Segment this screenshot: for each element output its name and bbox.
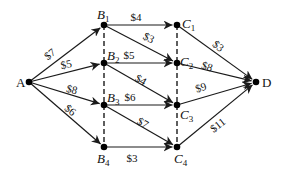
edge-label-C3-D: $9 <box>194 80 209 95</box>
node-C1-dot <box>174 22 181 29</box>
edge-A-B3 <box>29 82 100 104</box>
node-label-C2: C2 <box>180 54 193 71</box>
edge-label-B2-C3: $4 <box>133 72 149 88</box>
edge-label-B4-C4: $3 <box>127 152 139 164</box>
node-D-dot <box>253 79 260 86</box>
edge-label-A-B2: $5 <box>60 57 74 71</box>
node-label-C1: C1 <box>182 16 195 33</box>
edge-label-A-B1: $7 <box>42 45 58 62</box>
node-label-B3: B3 <box>107 90 120 107</box>
edge-A-B1 <box>29 28 100 82</box>
node-label-B1: B1 <box>97 7 109 24</box>
node-label-B4: B4 <box>97 151 110 168</box>
node-label-A: A <box>16 75 26 90</box>
network-diagram: $7$5$8$6$4$3$5$4$6$7$3$3$8$9$11 AB1B2B3B… <box>0 0 286 171</box>
edge-label-B2-C2: $5 <box>124 49 136 61</box>
edge-label-A-B4: $6 <box>62 102 78 119</box>
node-label-C3: C3 <box>180 107 194 124</box>
node-label-D: D <box>262 75 271 90</box>
node-label-B2: B2 <box>107 48 119 65</box>
edge-labels: $7$5$8$6$4$3$5$4$6$7$3$3$8$9$11 <box>42 11 228 164</box>
edge-label-C4-D: $11 <box>208 115 228 134</box>
node-A-dot <box>26 79 33 86</box>
edge-label-B1-C1: $4 <box>131 11 143 23</box>
node-C4-dot <box>174 144 181 151</box>
edge-label-B1-C2: $3 <box>141 30 157 46</box>
edge-label-B3-C3: $6 <box>125 91 137 103</box>
edge-C1-D <box>177 25 252 79</box>
node-labels: AB1B2B3B4C1C2C3C4D <box>16 7 271 168</box>
node-B4-dot <box>101 144 108 151</box>
node-label-C4: C4 <box>174 151 188 168</box>
edge-label-C1-D: $3 <box>210 38 226 55</box>
edge-label-B3-C4: $7 <box>135 115 151 131</box>
